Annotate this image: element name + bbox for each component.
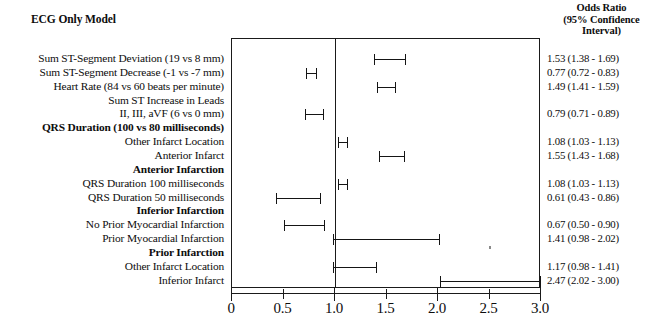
axis-tick — [283, 289, 284, 299]
axis-tick — [437, 287, 438, 301]
odds-ratio-column-header: Odds Ratio (95% Confidence Interval) — [545, 2, 658, 37]
row-label: Sum ST-Segment Decrease (-1 vs -7 mm) — [40, 66, 224, 79]
ci-cap-upper — [320, 193, 321, 204]
confidence-interval-bar — [377, 82, 396, 93]
ci-cap-lower — [379, 151, 380, 162]
odds-ratio-value: 1.08 (1.03 - 1.13) — [547, 177, 619, 190]
axis-tick-label: 0.5 — [260, 300, 306, 317]
ci-cap-upper — [347, 137, 348, 148]
row-label: QRS Duration 100 milliseconds — [82, 177, 224, 190]
confidence-interval-bar — [306, 68, 317, 79]
confidence-interval-bar — [333, 234, 440, 245]
row-label: Sum ST Increase in Leads — [108, 94, 224, 107]
ci-cap-lower — [440, 276, 441, 287]
row-label: Other Infarct Location — [125, 260, 224, 273]
row-label: QRS Duration (100 vs 80 milliseconds) — [42, 121, 224, 134]
axis-tick-label: 3.0 — [517, 300, 563, 317]
confidence-interval-bar — [276, 193, 320, 204]
row-label: Prior Infarction — [149, 246, 224, 259]
odds-ratio-value: 1.08 (1.03 - 1.13) — [547, 135, 619, 148]
confidence-interval-bar — [440, 276, 541, 287]
odds-ratio-value: 1.53 (1.38 - 1.69) — [547, 52, 619, 65]
ci-cap-upper — [316, 68, 317, 79]
ci-cap-lower — [306, 68, 307, 79]
ci-cap-upper — [323, 109, 324, 120]
row-label: No Prior Myocardial Infarction — [86, 218, 224, 231]
ci-line — [374, 59, 406, 60]
axis-tick-label: 1.0 — [311, 300, 357, 317]
ci-line — [377, 87, 396, 88]
odds-ratio-value: 1.41 (0.98 - 2.02) — [547, 232, 619, 245]
ci-cap-lower — [284, 220, 285, 231]
scan-artifact-speck — [489, 246, 491, 249]
confidence-interval-bar — [374, 54, 406, 65]
axis-tick-label: 2.5 — [466, 300, 512, 317]
confidence-interval-bar — [338, 179, 348, 190]
ci-cap-lower — [333, 234, 334, 245]
row-label: Anterior Infarct — [155, 149, 224, 162]
confidence-interval-bar — [338, 137, 348, 148]
reference-line — [335, 39, 336, 287]
ci-cap-upper — [324, 220, 325, 231]
ci-cap-lower — [377, 82, 378, 93]
ci-cap-upper — [395, 82, 396, 93]
odds-ratio-column: 1.53 (1.38 - 1.69)0.77 (0.72 - 0.83)1.49… — [545, 38, 658, 288]
odds-ratio-value: 0.79 (0.71 - 0.89) — [547, 107, 619, 120]
axis-tick-label: 2.0 — [414, 300, 460, 317]
odds-ratio-value: 0.67 (0.50 - 0.90) — [547, 218, 619, 231]
axis-tick — [231, 287, 232, 301]
axis-tick-label: 1.5 — [363, 300, 409, 317]
row-label: II, III, aVF (6 vs 0 mm) — [119, 107, 224, 120]
ci-line — [305, 114, 324, 115]
row-label: Inferior Infarction — [136, 204, 224, 217]
ci-cap-upper — [540, 276, 541, 287]
ci-cap-upper — [404, 151, 405, 162]
ci-cap-lower — [374, 54, 375, 65]
ci-cap-lower — [338, 137, 339, 148]
x-axis — [231, 293, 540, 294]
confidence-interval-bar — [379, 151, 405, 162]
axis-tick — [489, 289, 490, 299]
ci-cap-lower — [338, 179, 339, 190]
ci-cap-upper — [439, 234, 440, 245]
ci-cap-upper — [376, 262, 377, 273]
ci-line — [333, 239, 440, 240]
row-label: Inferior Infarct — [158, 274, 224, 287]
odds-ratio-value: 1.49 (1.41 - 1.59) — [547, 80, 619, 93]
axis-tick-label: 0 — [208, 300, 254, 317]
ci-cap-lower — [276, 193, 277, 204]
odds-ratio-value: 1.55 (1.43 - 1.68) — [547, 149, 619, 162]
row-label: Other Infarct Location — [125, 135, 224, 148]
row-label: Anterior Infarction — [133, 163, 224, 176]
ci-line — [276, 198, 320, 199]
row-label: Prior Myocardial Infarction — [102, 232, 224, 245]
ci-cap-lower — [305, 109, 306, 120]
axis-tick — [386, 289, 387, 299]
confidence-interval-bar — [333, 262, 377, 273]
confidence-interval-bar — [305, 109, 324, 120]
ci-line — [379, 156, 405, 157]
row-label-column: Sum ST-Segment Deviation (19 vs 8 mm)Sum… — [0, 38, 228, 288]
odds-ratio-value: 0.77 (0.72 - 0.83) — [547, 66, 619, 79]
odds-ratio-value: 2.47 (2.02 - 3.00) — [547, 274, 619, 287]
ci-line — [284, 225, 325, 226]
or-header-line-2: (95% Confidence — [545, 14, 658, 26]
ci-line — [333, 267, 377, 268]
ci-cap-upper — [347, 179, 348, 190]
axis-tick — [540, 287, 541, 301]
ci-cap-upper — [405, 54, 406, 65]
odds-ratio-value: 1.17 (0.98 - 1.41) — [547, 260, 619, 273]
plot-area — [231, 38, 540, 288]
ci-cap-lower — [333, 262, 334, 273]
model-title: ECG Only Model — [31, 13, 116, 25]
row-label: Heart Rate (84 vs 60 beats per minute) — [54, 80, 224, 93]
or-header-line-3: Interval) — [545, 25, 658, 37]
odds-ratio-value: 0.61 (0.43 - 0.86) — [547, 191, 619, 204]
axis-tick — [334, 287, 335, 301]
forest-plot-figure: Odds Ratio (95% Confidence Interval) ECG… — [0, 0, 658, 325]
ci-line — [440, 281, 541, 282]
or-header-line-1: Odds Ratio — [545, 2, 658, 14]
row-label: QRS Duration 50 milliseconds — [88, 191, 224, 204]
confidence-interval-bar — [284, 220, 325, 231]
row-label: Sum ST-Segment Deviation (19 vs 8 mm) — [38, 52, 224, 65]
